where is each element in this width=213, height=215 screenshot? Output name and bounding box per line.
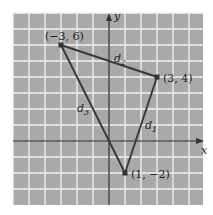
point-marker — [123, 171, 128, 176]
point-marker — [155, 75, 160, 80]
coordinate-plane: x y (−3, 6) (3, 4) (1, −2) d2 d3 d1 — [0, 0, 213, 215]
point-label: (1, −2) — [131, 168, 170, 181]
y-axis-label: y — [113, 10, 121, 23]
point-label: (−3, 6) — [45, 30, 84, 43]
x-axis-label: x — [201, 144, 208, 157]
point-label: (3, 4) — [163, 72, 193, 85]
point-marker — [59, 43, 64, 48]
